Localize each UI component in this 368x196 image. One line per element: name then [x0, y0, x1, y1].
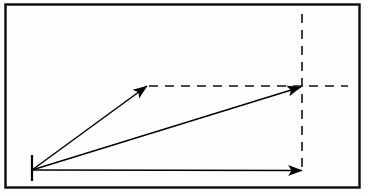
vector-diagram-svg — [0, 0, 368, 196]
figure-canvas — [0, 0, 368, 196]
vector-a-arrow — [32, 86, 147, 170]
outer-border — [6, 5, 360, 188]
vector-b-arrow — [32, 170, 302, 171]
vector-resultant-arrow — [32, 87, 301, 170]
